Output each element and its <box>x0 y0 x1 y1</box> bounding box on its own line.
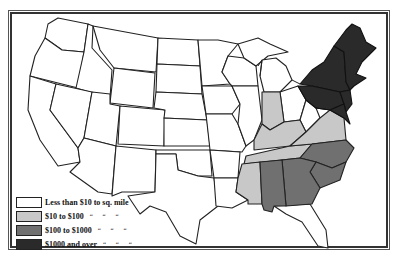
legend-label: $100 to $1000 <box>45 226 92 235</box>
map-legend: Less than $10 to sq. mile $10 to $100 “ … <box>16 196 166 252</box>
state-new-york <box>300 46 350 92</box>
legend-ditto: “ “ “ <box>90 213 123 221</box>
legend-item-10-to-100: $10 to $100 “ “ “ <box>16 210 166 223</box>
state-south-dakota <box>156 64 202 94</box>
state-florida <box>274 204 328 248</box>
state-georgia <box>282 158 320 206</box>
legend-label: Less than $10 to sq. mile <box>45 198 129 207</box>
legend-item-1000-and-over: $1000 and over “ “ “ <box>16 238 166 251</box>
legend-swatch <box>16 239 42 250</box>
legend-swatch <box>16 197 42 208</box>
legend-swatch <box>16 225 42 236</box>
lake-erie-shore <box>292 80 300 84</box>
state-new-mexico <box>112 146 156 196</box>
state-kansas <box>164 118 210 146</box>
state-colorado <box>118 106 165 146</box>
legend-ditto: “ “ “ <box>98 227 131 235</box>
legend-label: $1000 and over <box>45 240 97 249</box>
legend-item-100-to-1000: $100 to $1000 “ “ “ <box>16 224 166 237</box>
state-alabama <box>260 160 286 212</box>
legend-label: $10 to $100 <box>45 212 84 221</box>
state-arkansas <box>210 150 240 178</box>
legend-ditto: “ “ “ <box>103 241 136 249</box>
legend-item-less-than-10: Less than $10 to sq. mile <box>16 196 166 209</box>
state-michigan-lower <box>260 58 292 92</box>
state-north-dakota <box>157 38 200 66</box>
legend-swatch <box>16 211 42 222</box>
state-wyoming <box>110 68 155 108</box>
